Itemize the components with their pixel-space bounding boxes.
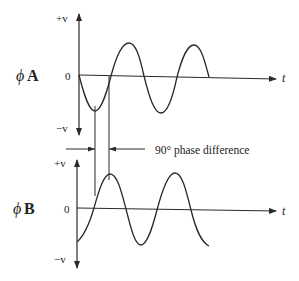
phase-b-plot	[77, 160, 276, 268]
phase-b-zero-label: 0	[64, 203, 70, 215]
phase-difference-label: 90° phase difference	[155, 144, 249, 157]
phase-a-waveform	[79, 43, 209, 113]
phase-a-minus-v-label: −v	[56, 122, 68, 134]
phase-b-time-label: t	[282, 204, 286, 218]
phase-a-zero-label: 0	[65, 70, 71, 82]
phase-b-symbol: ϕ	[13, 200, 21, 218]
phase-a-letter: A	[27, 67, 39, 84]
phase-a-time-label: t	[282, 71, 286, 85]
phase-b-minus-v-label: −v	[54, 253, 66, 265]
phase-b-letter: B	[24, 200, 35, 217]
phase-a-symbol: ϕ	[16, 67, 24, 85]
phase-b-time-axis	[77, 208, 276, 211]
phase-difference-diagram: ϕ A +v 0 −v t 90° phase difference ϕ B +…	[0, 0, 299, 281]
diagram-canvas: ϕ A +v 0 −v t 90° phase difference ϕ B +…	[0, 0, 299, 281]
phase-b-plus-v-label: +v	[54, 157, 66, 169]
phase-a-plus-v-label: +v	[56, 12, 68, 24]
